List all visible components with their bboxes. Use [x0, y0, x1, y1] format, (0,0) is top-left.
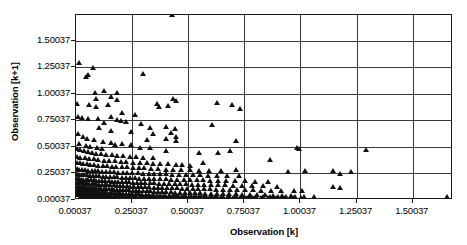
data-point-marker: [233, 138, 239, 143]
data-point-marker: [227, 148, 233, 153]
data-point-marker: [330, 184, 336, 189]
data-point-marker: [144, 160, 150, 165]
data-point-marker: [155, 166, 161, 171]
data-point-marker: [90, 65, 96, 70]
data-point-marker: [150, 161, 156, 166]
scatter-chart-figure: Observation [k+1] 0.000370.250370.500370…: [0, 0, 467, 245]
data-point-marker: [165, 161, 171, 166]
data-point-marker: [128, 129, 134, 134]
data-point-marker: [299, 188, 305, 193]
data-point-marker: [137, 145, 143, 150]
y-tick-label: 0.00037: [8, 193, 70, 204]
data-point-marker: [123, 159, 129, 164]
x-tick-label: 0.00037: [43, 205, 107, 216]
data-point-marker: [200, 160, 206, 165]
gridline-vertical: [244, 15, 245, 198]
y-tick-label: 1.50037: [8, 34, 70, 45]
data-point-marker: [75, 101, 80, 106]
data-point-marker: [169, 14, 175, 17]
data-point-marker: [444, 194, 450, 199]
data-point-marker: [156, 104, 162, 109]
data-point-marker: [93, 104, 99, 109]
data-point-marker: [209, 122, 215, 127]
data-point-marker: [187, 167, 193, 172]
data-point-marker: [140, 71, 146, 76]
data-point-marker: [249, 195, 255, 199]
y-axis-title: Observation [k+1]: [9, 22, 20, 182]
x-tick-label: 1.25037: [324, 205, 388, 216]
data-point-marker: [363, 147, 369, 152]
data-point-marker: [163, 148, 169, 153]
x-tick-mark: [243, 199, 244, 203]
data-point-marker: [173, 98, 179, 103]
data-point-marker: [105, 102, 111, 107]
data-point-marker: [196, 150, 202, 155]
data-point-marker: [147, 145, 153, 150]
data-point-marker: [206, 168, 212, 173]
data-point-marker: [214, 100, 220, 105]
gridline-horizontal: [76, 147, 451, 148]
data-point-marker: [92, 90, 98, 95]
data-point-marker: [84, 136, 90, 141]
data-point-marker: [85, 116, 91, 121]
data-point-marker: [234, 195, 240, 199]
data-point-marker: [119, 141, 125, 146]
data-point-marker: [285, 169, 291, 174]
data-point-marker: [83, 74, 89, 79]
data-point-marker: [163, 136, 169, 141]
y-tick-mark: [71, 146, 75, 147]
gridline-horizontal: [76, 41, 451, 42]
data-point-marker: [233, 167, 239, 172]
data-point-marker: [91, 137, 97, 142]
data-point-marker: [207, 195, 213, 199]
data-point-marker: [150, 155, 156, 160]
y-tick-mark: [71, 40, 75, 41]
data-point-marker: [163, 124, 169, 129]
x-tick-label: 0.75037: [211, 205, 275, 216]
x-tick-label: 1.00037: [267, 205, 331, 216]
data-point-marker: [227, 195, 233, 199]
data-point-marker: [311, 194, 317, 199]
data-point-marker: [165, 103, 171, 108]
y-tick-mark: [71, 93, 75, 94]
data-point-marker: [215, 150, 221, 155]
data-point-marker: [112, 142, 118, 147]
data-point-marker: [100, 139, 106, 144]
data-point-marker: [130, 160, 136, 165]
data-point-marker: [348, 169, 354, 174]
y-tick-label: 0.75037: [8, 113, 70, 124]
data-point-marker: [265, 195, 271, 199]
x-tick-label: 0.25037: [99, 205, 163, 216]
x-tick-mark: [412, 199, 413, 203]
y-tick-label: 0.25037: [8, 166, 70, 177]
data-point-marker: [114, 90, 120, 95]
x-axis-title: Observation [k]: [75, 226, 453, 237]
data-point-marker: [108, 94, 114, 99]
data-point-marker: [302, 168, 308, 173]
data-point-marker: [258, 195, 264, 199]
data-point-marker: [296, 146, 302, 151]
data-point-marker: [201, 195, 207, 199]
data-point-marker: [123, 119, 129, 124]
data-point-marker: [108, 128, 114, 133]
data-point-marker: [76, 141, 82, 146]
gridline-horizontal: [76, 67, 451, 68]
data-point-marker: [214, 195, 220, 199]
data-point-marker: [337, 171, 343, 176]
x-tick-mark: [299, 199, 300, 203]
data-point-marker: [96, 125, 102, 130]
x-tick-label: 0.50037: [155, 205, 219, 216]
x-tick-label: 1.50037: [380, 205, 444, 216]
y-tick-label: 0.50037: [8, 140, 70, 151]
data-point-marker: [114, 97, 120, 102]
data-point-marker: [140, 155, 146, 160]
data-point-marker: [273, 195, 279, 199]
data-point-marker: [237, 106, 243, 111]
gridline-horizontal: [76, 94, 451, 95]
data-point-marker: [127, 154, 133, 159]
plot-area: [75, 14, 452, 199]
gridline-horizontal: [76, 120, 451, 121]
data-point-marker: [128, 142, 134, 147]
data-point-marker: [141, 165, 147, 170]
data-point-marker: [337, 185, 343, 190]
